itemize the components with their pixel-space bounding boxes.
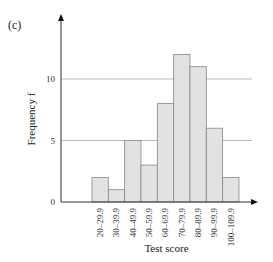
x-axis-arrow-icon xyxy=(251,199,258,205)
histogram-bar xyxy=(206,128,222,202)
x-tick-label: 50–59.9 xyxy=(144,208,154,238)
y-axis-label: Frequency f xyxy=(25,93,37,146)
y-tick-label: 0 xyxy=(51,197,56,207)
x-tick-label: 100–109.9 xyxy=(226,208,236,247)
y-tick-label: 5 xyxy=(51,136,56,146)
x-tick-label: 40–49.9 xyxy=(128,208,138,238)
histogram-bar xyxy=(125,141,141,203)
histogram-bar xyxy=(190,67,206,202)
histogram-bar xyxy=(223,177,239,202)
x-tick-label: 80–89.9 xyxy=(193,208,203,238)
histogram-bar xyxy=(174,54,190,202)
x-tick-label: 20–29.9 xyxy=(95,208,105,238)
x-axis-label: Test score xyxy=(0,242,273,254)
histogram-bar xyxy=(141,165,157,202)
y-axis-arrow-icon xyxy=(58,14,64,21)
histogram: 051020–29.930–39.940–49.950–59.960–69.97… xyxy=(0,0,273,262)
y-tick-label: 10 xyxy=(46,74,56,84)
histogram-bar xyxy=(92,177,108,202)
y-axis-label-text: Frequency f xyxy=(25,93,37,146)
x-tick-label: 30–39.9 xyxy=(111,208,121,238)
histogram-bar xyxy=(108,190,124,202)
x-tick-label: 90–99.9 xyxy=(209,208,219,238)
x-tick-label: 60–69.9 xyxy=(160,208,170,238)
histogram-bar xyxy=(157,104,173,202)
x-tick-label: 70–79.9 xyxy=(177,208,187,238)
